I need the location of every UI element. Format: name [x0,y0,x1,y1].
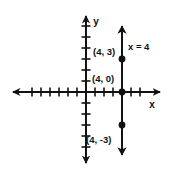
data-point-4-3 [119,56,126,63]
point-label-4-0: (4, 0) [92,73,114,84]
coordinate-plane-figure: (4, 3) (4, 0) (4, -3) x = 4 x y [0,0,172,175]
y-axis-label: y [93,16,99,27]
point-label-4-3: (4, 3) [93,46,115,57]
data-point-4-0 [119,89,126,96]
data-point-4-neg3 [119,122,126,129]
graph-canvas: (4, 3) (4, 0) (4, -3) x = 4 x y [0,0,172,175]
point-label-4-neg3: (4, -3) [86,134,111,145]
x-axis-label: x [149,99,155,110]
line-equation-label: x = 4 [128,41,150,52]
